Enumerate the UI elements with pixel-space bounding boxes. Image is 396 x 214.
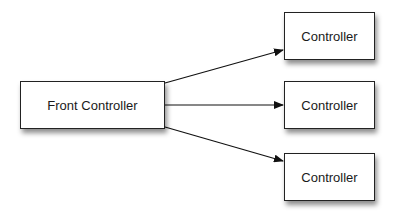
controller-label: Controller bbox=[301, 29, 357, 44]
arrow-to-controller-top bbox=[165, 50, 283, 83]
controller-box-bottom: Controller bbox=[284, 153, 375, 201]
controller-box-middle: Controller bbox=[284, 81, 375, 129]
controller-label: Controller bbox=[301, 98, 357, 113]
front-controller-box: Front Controller bbox=[20, 81, 165, 129]
controller-label: Controller bbox=[301, 170, 357, 185]
front-controller-label: Front Controller bbox=[47, 98, 137, 113]
controller-box-top: Controller bbox=[284, 12, 375, 60]
arrow-to-controller-bottom bbox=[165, 127, 283, 161]
